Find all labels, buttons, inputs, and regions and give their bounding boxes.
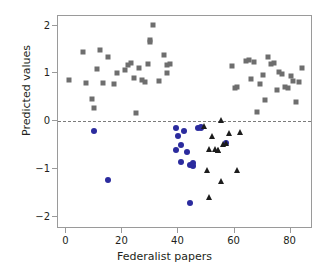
data-point <box>84 81 89 86</box>
data-point <box>175 133 181 139</box>
x-axis-tick <box>177 228 178 233</box>
data-point <box>257 81 262 86</box>
data-point <box>260 73 265 78</box>
data-point <box>105 177 111 183</box>
data-point <box>234 167 240 173</box>
data-point <box>294 100 299 105</box>
y-axis-tick-label: 2 <box>44 19 50 30</box>
data-point <box>91 128 97 134</box>
plot-area <box>57 15 312 228</box>
y-axis-tick-label: 1 <box>44 67 50 78</box>
y-axis-label: Predicted values <box>20 21 33 161</box>
y-axis-tick-label: −1 <box>35 163 50 174</box>
data-point <box>89 96 94 101</box>
data-point <box>173 147 179 153</box>
data-point <box>98 47 103 52</box>
zero-reference-line <box>58 121 311 122</box>
x-axis-label: Federalist papers <box>0 250 329 263</box>
data-point <box>123 68 128 73</box>
y-axis-tick-label: −2 <box>35 211 50 222</box>
x-axis-tick-label: 60 <box>227 235 240 246</box>
data-point <box>201 123 207 129</box>
scatter-plot-figure: 210−1−2020406080 Federalist papers Predi… <box>0 0 329 273</box>
data-point <box>162 52 167 57</box>
data-point <box>271 61 276 66</box>
data-point <box>254 110 259 115</box>
data-point <box>206 194 212 200</box>
data-point <box>81 50 86 55</box>
data-point <box>67 77 72 82</box>
data-point <box>215 147 221 153</box>
data-point <box>235 84 240 89</box>
data-point <box>218 117 224 123</box>
data-point <box>184 149 190 155</box>
data-point <box>263 97 268 102</box>
data-point <box>237 129 243 135</box>
data-point <box>92 105 97 110</box>
y-axis-tick <box>52 216 57 217</box>
x-axis-tick-label: 20 <box>115 235 128 246</box>
data-point <box>285 86 290 91</box>
data-point <box>128 61 133 66</box>
data-point <box>299 66 304 71</box>
data-point <box>148 37 153 42</box>
data-point <box>252 60 257 65</box>
data-point <box>165 71 170 76</box>
data-point <box>246 57 251 62</box>
data-point <box>151 23 156 28</box>
x-axis-tick <box>121 228 122 233</box>
y-axis-tick-label: 0 <box>44 115 50 126</box>
data-point <box>190 163 196 169</box>
data-point <box>187 200 193 206</box>
data-point <box>223 140 229 146</box>
y-axis-tick <box>52 25 57 26</box>
data-point <box>296 79 301 84</box>
data-point <box>178 159 184 165</box>
data-point <box>156 79 161 84</box>
data-point <box>168 61 173 66</box>
data-point <box>173 125 179 131</box>
x-axis-tick-label: 0 <box>62 235 68 246</box>
data-point <box>209 133 215 139</box>
data-point <box>229 64 234 69</box>
x-axis-tick <box>290 228 291 233</box>
data-point <box>204 167 210 173</box>
data-point <box>95 67 100 72</box>
x-axis-tick <box>65 228 66 233</box>
x-axis-tick <box>234 228 235 233</box>
data-point <box>249 76 254 81</box>
data-point <box>114 70 119 75</box>
data-point <box>137 65 142 70</box>
data-point <box>142 79 147 84</box>
data-point <box>218 178 224 184</box>
data-point <box>100 81 105 86</box>
data-point <box>178 142 184 148</box>
data-point <box>280 71 285 76</box>
data-point <box>131 76 136 81</box>
y-axis-tick <box>52 168 57 169</box>
y-axis-tick <box>52 72 57 73</box>
data-point <box>106 55 111 60</box>
x-axis-tick-label: 40 <box>171 235 184 246</box>
x-axis-tick-label: 80 <box>283 235 296 246</box>
data-point <box>134 111 139 116</box>
data-point <box>266 55 271 60</box>
data-point <box>181 128 187 134</box>
y-axis-tick <box>52 120 57 121</box>
data-point <box>274 88 279 93</box>
data-point <box>112 82 117 87</box>
data-point <box>145 61 150 66</box>
data-point <box>291 78 296 83</box>
data-point <box>226 130 232 136</box>
